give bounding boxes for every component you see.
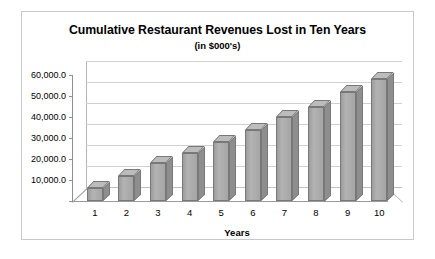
x-axis-label: 5	[219, 207, 224, 218]
bar-front-face	[371, 79, 387, 201]
plot-area: 10,000.020,000.030,000.040,000.050,000.0…	[72, 61, 402, 211]
x-axis-label: 9	[345, 207, 350, 218]
y-axis-label: 10,000.0	[31, 175, 66, 185]
bar-side-face	[292, 110, 299, 201]
bar-front-face	[308, 107, 324, 202]
bar-front-face	[150, 163, 166, 201]
bar-side-face	[387, 73, 394, 201]
bar-front-face	[245, 130, 261, 201]
x-axis-title: Years	[72, 227, 402, 238]
x-axis-label: 6	[250, 207, 255, 218]
bar-column[interactable]	[213, 142, 229, 201]
chart-subtitle: (in $000's)	[22, 40, 413, 51]
y-axis-label: 50,000.0	[31, 91, 66, 101]
bar-side-face	[324, 100, 331, 201]
bar-front-face	[87, 188, 103, 201]
bar-column[interactable]	[371, 79, 387, 201]
x-axis-label: 1	[92, 207, 97, 218]
bar-front-face	[276, 117, 292, 201]
bar-column[interactable]	[245, 130, 261, 201]
chart-frame: Cumulative Restaurant Revenues Lost in T…	[21, 11, 414, 240]
bar-column[interactable]	[87, 188, 103, 201]
bar-side-face	[229, 136, 236, 201]
y-axis-label: 20,000.0	[31, 154, 66, 164]
x-axis-label: 7	[282, 207, 287, 218]
x-axis-label: 8	[313, 207, 318, 218]
x-axis-label: 4	[187, 207, 192, 218]
bar-column[interactable]	[182, 153, 198, 201]
bar-side-face	[198, 146, 205, 201]
x-axis-label: 10	[374, 207, 385, 218]
bar-side-face	[356, 85, 363, 201]
bar-front-face	[182, 153, 198, 201]
bar-front-face	[118, 176, 134, 201]
y-axis-label: 30,000.0	[31, 133, 66, 143]
bar-column[interactable]	[118, 176, 134, 201]
bar-side-face	[166, 157, 173, 201]
y-axis-label: 40,000.0	[31, 112, 66, 122]
bar-front-face	[340, 92, 356, 201]
bar-front-face	[213, 142, 229, 201]
chart-title: Cumulative Restaurant Revenues Lost in T…	[22, 23, 413, 37]
bar-series	[72, 61, 402, 202]
bar-column[interactable]	[308, 107, 324, 202]
x-axis-label: 2	[124, 207, 129, 218]
bar-column[interactable]	[276, 117, 292, 201]
bar-column[interactable]	[150, 163, 166, 201]
y-axis-label: 60,000.0	[31, 70, 66, 80]
bar-side-face	[261, 123, 268, 201]
x-axis-label: 3	[155, 207, 160, 218]
bar-column[interactable]	[340, 92, 356, 201]
